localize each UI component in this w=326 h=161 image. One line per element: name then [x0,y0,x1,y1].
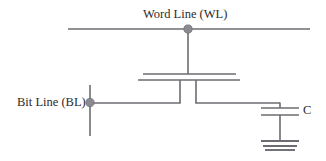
dram-cell-diagram: Word Line (WL) Bit Line (BL) C [0,0,326,161]
capacitor-label: C [303,104,311,117]
word-line-junction-dot [184,25,192,33]
bit-line-junction-dot [86,98,94,106]
bit-line-label: Bit Line (BL) [17,96,86,109]
circuit-schematic-canvas [0,0,326,161]
word-line-label: Word Line (WL) [143,8,227,21]
